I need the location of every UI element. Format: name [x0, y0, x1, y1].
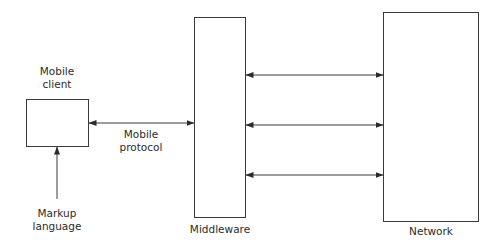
markup-language-label-line1: Markup	[22, 207, 92, 220]
mobile-protocol-label-line2: protocol	[111, 141, 171, 154]
middleware-box	[194, 17, 246, 218]
middleware-label: Middleware	[185, 223, 255, 236]
mobile-protocol-label: Mobile protocol	[111, 128, 171, 154]
markup-language-label: Markup language	[22, 207, 92, 233]
mobile-client-label: Mobile client	[27, 65, 87, 91]
mobile-client-box	[26, 99, 89, 147]
network-label: Network	[396, 225, 466, 238]
mobile-client-label-line2: client	[27, 78, 87, 91]
network-box	[383, 12, 479, 222]
markup-language-label-line2: language	[22, 220, 92, 233]
mobile-client-label-line1: Mobile	[27, 65, 87, 78]
mobile-protocol-label-line1: Mobile	[111, 128, 171, 141]
